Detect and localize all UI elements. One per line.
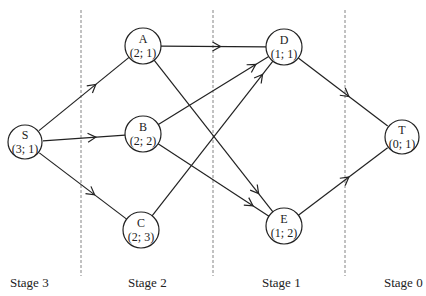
node-name: D: [280, 33, 289, 47]
node-value: (1; 2): [271, 226, 297, 240]
stage-label-2: Stage 2: [128, 275, 167, 290]
node-name: C: [137, 216, 145, 230]
edge-a-d: [161, 42, 266, 51]
node-a: A (2; 1): [125, 28, 161, 64]
edge-a-e: [154, 60, 273, 212]
stage-label-0: Stage 0: [384, 275, 423, 290]
edge-e-t: [298, 148, 387, 215]
node-name: S: [22, 128, 29, 142]
node-value: (0; 1): [389, 137, 415, 151]
stage-dividers: [81, 10, 345, 276]
node-name: E: [280, 212, 287, 226]
edge-s-c: [39, 153, 126, 219]
stage-label-1: Stage 1: [262, 275, 301, 290]
node-value: (2; 2): [130, 134, 156, 148]
node-value: (3; 1): [12, 142, 38, 156]
node-value: (2; 1): [130, 46, 156, 60]
node-t: T (0; 1): [385, 120, 419, 154]
node-s: S (3; 1): [8, 125, 42, 159]
edge-b-e: [158, 144, 269, 216]
node-value: (1; 1): [271, 47, 297, 61]
network-diagram: S (3; 1) A (2; 1) B (2; 2) C (2; 3) D (1…: [0, 0, 426, 296]
node-e: E (1; 2): [266, 208, 302, 244]
node-name: A: [139, 32, 148, 46]
node-name: B: [139, 120, 147, 134]
edge-s-a: [39, 57, 129, 130]
node-c: C (2; 3): [123, 212, 159, 248]
node-name: T: [398, 123, 406, 137]
stage-label-3: Stage 3: [10, 275, 49, 290]
edge-b-d: [158, 56, 268, 124]
node-value: (2; 3): [128, 230, 154, 244]
node-b: B (2; 2): [125, 116, 161, 152]
edge-s-b: [43, 133, 125, 142]
edge-d-t: [298, 58, 387, 126]
node-d: D (1; 1): [266, 29, 302, 65]
stage-labels: Stage 3 Stage 2 Stage 1 Stage 0: [10, 275, 423, 290]
